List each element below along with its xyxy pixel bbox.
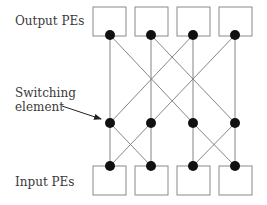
switch-node [105, 161, 115, 171]
switch-node [230, 30, 240, 40]
switch-node [188, 30, 198, 40]
switch-node [188, 161, 198, 171]
switch-node [105, 118, 115, 128]
switch-node [146, 161, 156, 171]
switch-node [230, 118, 240, 128]
network-links [110, 35, 235, 166]
input-pe-boxes [93, 166, 252, 195]
switch-node [146, 30, 156, 40]
switch-node [146, 118, 156, 128]
switch-node [188, 118, 198, 128]
switch-node [105, 30, 115, 40]
output-pe-boxes [93, 7, 252, 36]
switch-node [230, 161, 240, 171]
pointer-arrow-icon [62, 106, 101, 119]
interconnection-network-diagram [0, 0, 267, 205]
